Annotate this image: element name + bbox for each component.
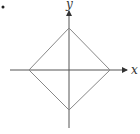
- bullet-dot: [2, 6, 5, 9]
- diagram-canvas: x y: [0, 0, 140, 134]
- x-axis-label: x: [131, 63, 138, 77]
- y-axis-label: y: [65, 0, 73, 11]
